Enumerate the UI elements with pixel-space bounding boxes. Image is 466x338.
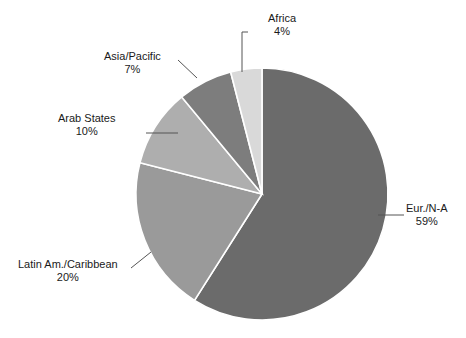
slice-label-latin-america: Latin Am./Caribbean 20%	[18, 258, 118, 284]
slice-label-africa-name: Africa	[268, 12, 296, 25]
slice-label-arab-states-name: Arab States	[58, 112, 115, 125]
pie-slice-group	[136, 68, 388, 320]
pie-chart: Africa 4% Asia/Pacific 7% Arab States 10…	[0, 0, 466, 338]
slice-label-asia-pacific-value: 7%	[104, 63, 161, 76]
slice-label-latin-america-value: 20%	[18, 271, 118, 284]
leader-line-africa	[242, 32, 248, 72]
slice-label-eur-na-value: 59%	[406, 215, 448, 228]
leader-line-asia-pacific	[178, 60, 197, 78]
leader-line-latin-america	[131, 252, 151, 268]
slice-label-arab-states: Arab States 10%	[58, 112, 115, 138]
slice-label-africa-value: 4%	[268, 25, 296, 38]
pie-chart-canvas	[0, 0, 466, 338]
slice-label-asia-pacific: Asia/Pacific 7%	[104, 50, 161, 76]
slice-label-africa: Africa 4%	[268, 12, 296, 38]
slice-label-asia-pacific-name: Asia/Pacific	[104, 50, 161, 63]
slice-label-arab-states-value: 10%	[58, 125, 115, 138]
slice-label-eur-na-name: Eur./N-A	[406, 202, 448, 215]
slice-label-eur-na: Eur./N-A 59%	[406, 202, 448, 228]
slice-label-latin-america-name: Latin Am./Caribbean	[18, 258, 118, 271]
